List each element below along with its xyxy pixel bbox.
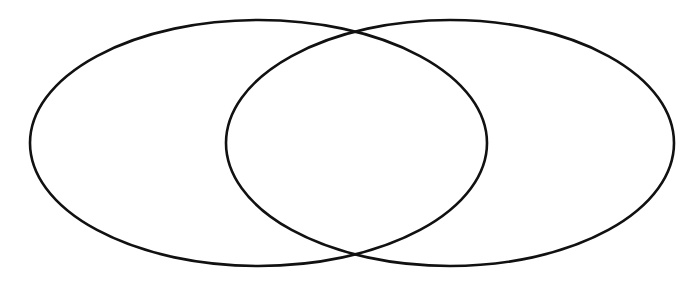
- venn-diagram: [0, 0, 699, 283]
- left-set-ellipse: [30, 20, 487, 266]
- right-set-ellipse: [226, 20, 674, 266]
- venn-diagram-svg: [0, 0, 699, 283]
